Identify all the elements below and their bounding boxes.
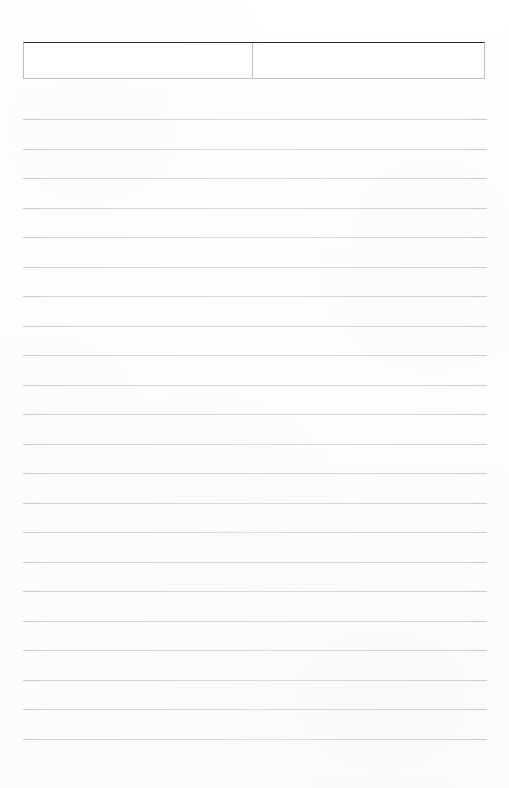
- rule-line: [23, 650, 487, 651]
- rule-line: [23, 326, 487, 327]
- rule-line: [23, 621, 487, 622]
- rule-line: [23, 119, 487, 120]
- page-canvas: [0, 0, 509, 788]
- rule-line: [23, 562, 487, 563]
- rule-line: [23, 532, 487, 533]
- rule-line: [23, 355, 487, 356]
- rule-line: [23, 709, 487, 710]
- rule-line: [23, 444, 487, 445]
- rule-line: [23, 149, 487, 150]
- rule-line: [23, 473, 487, 474]
- ruled-line-area: [0, 0, 509, 788]
- header-cell-right[interactable]: [253, 43, 484, 78]
- header-cell-left[interactable]: [24, 43, 253, 78]
- rule-line: [23, 267, 487, 268]
- rule-line: [23, 296, 487, 297]
- rule-line: [23, 178, 487, 179]
- rule-line: [23, 591, 487, 592]
- paper-texture: [0, 0, 509, 788]
- rule-line: [23, 385, 487, 386]
- header-box[interactable]: [23, 42, 485, 79]
- rule-line: [23, 237, 487, 238]
- rule-line: [23, 739, 487, 740]
- rule-line: [23, 208, 487, 209]
- rule-line: [23, 414, 487, 415]
- rule-line: [23, 503, 487, 504]
- rule-line: [23, 680, 487, 681]
